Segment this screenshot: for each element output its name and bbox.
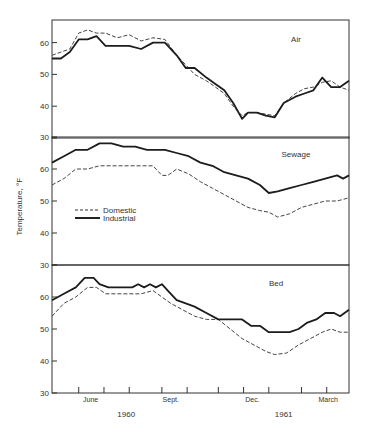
x-month-label: March xyxy=(318,396,338,403)
y-tick-label: 50 xyxy=(40,70,49,79)
y-tick-label: 30 xyxy=(40,133,49,142)
y-tick-label: 40 xyxy=(40,229,49,238)
y-tick-label: 40 xyxy=(40,102,49,111)
panel-title: Sewage xyxy=(282,150,311,159)
y-tick-label: 40 xyxy=(40,357,49,366)
chart-panels: 405060Air40506030Sewage3040506030Bed xyxy=(40,20,349,398)
y-tick-label: 60 xyxy=(40,293,49,302)
panel-air: 405060Air xyxy=(40,20,349,138)
series-industrial xyxy=(52,278,349,332)
panel-title: Bed xyxy=(269,279,283,288)
temperature-chart: 405060Air40506030Sewage3040506030Bed Dom… xyxy=(0,0,369,434)
y-tick-label: 50 xyxy=(40,197,49,206)
y-tick-label: 60 xyxy=(40,165,49,174)
y-tick-label: 30 xyxy=(40,261,49,270)
y-tick-label: 50 xyxy=(40,325,49,334)
y-axis-title: Temperature, °F xyxy=(15,178,24,236)
series-domestic xyxy=(52,287,349,354)
x-month-label: Sept. xyxy=(163,396,179,404)
x-axis: JuneSept.Dec.March19601961 xyxy=(79,387,338,419)
legend-industrial-label: Industrial xyxy=(103,214,136,223)
y-axis-label: Temperature, xyxy=(15,188,24,235)
legend: Domestic Industrial xyxy=(75,206,136,223)
x-year-label: 1960 xyxy=(117,410,135,419)
y-tick-label: 30 xyxy=(40,389,49,398)
panel-sewage: 40506030Sewage xyxy=(40,133,349,265)
panel-title: Air xyxy=(291,35,301,44)
panel-frame xyxy=(52,20,349,138)
x-year-label: 1961 xyxy=(275,410,293,419)
x-month-label: Dec. xyxy=(245,396,259,403)
y-tick-label: 60 xyxy=(40,39,49,48)
panel-frame xyxy=(52,265,349,393)
panel-bed: 3040506030Bed xyxy=(40,261,349,398)
x-month-label: June xyxy=(83,396,98,403)
y-axis-unit: °F xyxy=(15,178,24,186)
series-domestic xyxy=(52,166,349,217)
